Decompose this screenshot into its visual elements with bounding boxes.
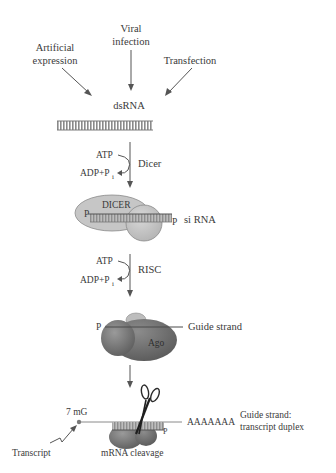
cap-label: 7 mG bbox=[66, 407, 88, 417]
guide-strand-label: Guide strand bbox=[188, 321, 243, 332]
transcript-label: Transcript bbox=[12, 448, 51, 458]
svg-text:RISC: RISC bbox=[138, 264, 161, 275]
cap-dot bbox=[77, 420, 81, 424]
svg-text:expression: expression bbox=[33, 55, 79, 66]
risc-step: ATP ADP+P i RISC bbox=[80, 254, 161, 297]
svg-text:ADP+P: ADP+P bbox=[80, 275, 110, 285]
rnai-pathway-diagram: Artificial expression Viral infection Tr… bbox=[0, 0, 336, 473]
dicer-protein-label: DICER bbox=[102, 200, 131, 210]
svg-text:ADP+P: ADP+P bbox=[80, 168, 110, 178]
duplex-label-line1: Guide strand: bbox=[240, 410, 291, 420]
svg-text:ATP: ATP bbox=[96, 256, 113, 266]
svg-text:infection: infection bbox=[112, 36, 150, 47]
source-artificial-expression: Artificial expression bbox=[33, 42, 79, 66]
svg-text:i: i bbox=[112, 280, 114, 288]
dsrna-molecule bbox=[57, 121, 153, 130]
phosphate-5: P bbox=[84, 209, 89, 219]
svg-text:ATP: ATP bbox=[96, 150, 113, 160]
phosphate-3: P bbox=[172, 217, 177, 227]
ago-complex: P Ago Guide strand bbox=[96, 313, 243, 361]
polya-tail: AAAAAAA bbox=[187, 417, 235, 427]
transcript-arrow bbox=[50, 428, 74, 443]
source-viral-infection: Viral infection bbox=[112, 23, 150, 47]
phosphate: P bbox=[96, 322, 101, 332]
ago-protein-label: Ago bbox=[148, 338, 165, 348]
svg-text:Viral: Viral bbox=[121, 23, 142, 34]
svg-text:Artificial: Artificial bbox=[36, 42, 75, 53]
dicer-complex: DICER P P si RNA bbox=[75, 195, 216, 241]
mrna-cleavage: 7 mG P AAAAAAA Guide strand: transcript … bbox=[12, 384, 304, 458]
phosphate: P bbox=[163, 427, 168, 436]
source-transfection: Transfection bbox=[164, 55, 217, 66]
svg-text:i: i bbox=[112, 173, 114, 181]
cleavage-label: mRNA cleavage bbox=[101, 448, 164, 458]
dicer-step: ATP ADP+P i Dicer bbox=[80, 142, 162, 188]
duplex-label-line2: transcript duplex bbox=[240, 422, 304, 432]
svg-text:Dicer: Dicer bbox=[138, 158, 162, 169]
dsrna-label: dsRNA bbox=[113, 100, 145, 111]
sirna-label: si RNA bbox=[184, 214, 216, 225]
